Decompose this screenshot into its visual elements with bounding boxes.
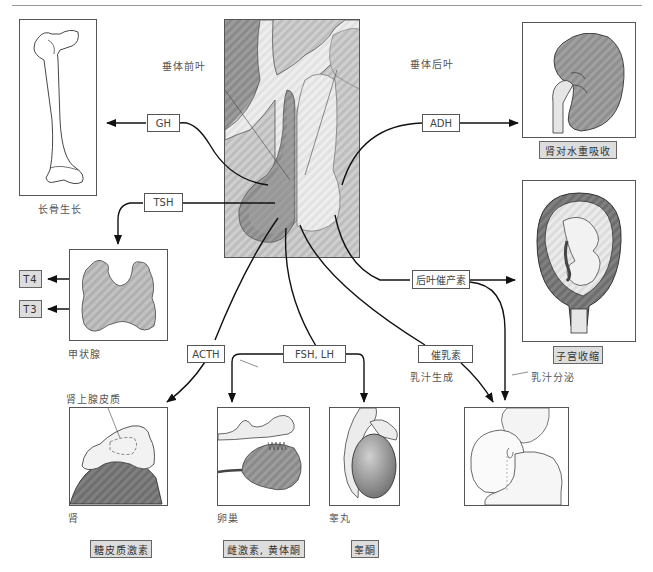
adrenal-cortex-label: 肾上腺皮质 bbox=[66, 391, 121, 406]
femur-illustration bbox=[20, 20, 96, 195]
uterus-effect: 子宫收缩 bbox=[553, 346, 603, 364]
kidney-panel bbox=[522, 22, 636, 138]
ovary-caption: 卵巢 bbox=[217, 510, 239, 525]
milk-production-label: 乳汁生成 bbox=[410, 369, 454, 384]
testis-output: 睾酮 bbox=[351, 540, 379, 558]
kidney-illustration bbox=[523, 23, 635, 137]
hormone-fsh-lh: FSH, LH bbox=[283, 345, 346, 363]
hormone-oxytocin: 后叶催产素 bbox=[412, 270, 470, 289]
thyroid-output-t4: T4 bbox=[19, 270, 42, 288]
posterior-pituitary-label: 垂体后叶 bbox=[410, 56, 454, 71]
anterior-pituitary-label: 垂体前叶 bbox=[162, 58, 206, 73]
milk-ejection-label: 乳汁分泌 bbox=[531, 369, 575, 384]
adrenal-output: 糖皮质激素 bbox=[90, 540, 152, 558]
adrenal-panel bbox=[69, 407, 168, 506]
ovary-panel bbox=[217, 407, 310, 506]
hormone-gh: GH bbox=[147, 114, 180, 132]
breastfeeding-panel bbox=[464, 407, 569, 506]
bone-panel bbox=[19, 19, 97, 196]
testis-panel bbox=[329, 407, 400, 506]
ovary-illustration bbox=[218, 408, 309, 505]
adrenal-caption: 肾 bbox=[68, 510, 79, 525]
thyroid-output-t3: T3 bbox=[19, 300, 42, 318]
bone-caption: 长骨生长 bbox=[38, 201, 82, 216]
testis-caption: 睾丸 bbox=[329, 510, 351, 525]
hormone-acth: ACTH bbox=[187, 345, 225, 363]
thyroid-panel bbox=[69, 249, 168, 341]
thyroid-illustration bbox=[70, 250, 167, 340]
thyroid-caption: 甲状腺 bbox=[68, 346, 101, 361]
header-rule bbox=[12, 5, 642, 6]
hormone-prolactin: 催乳素 bbox=[418, 345, 473, 363]
kidney-effect: 肾对水重吸收 bbox=[539, 141, 617, 159]
ovary-output: 雌激素, 黄体酮 bbox=[223, 540, 305, 558]
adrenal-illustration bbox=[70, 408, 167, 505]
hormone-tsh: TSH bbox=[144, 193, 183, 212]
pituitary-panel bbox=[224, 19, 360, 258]
hormone-adh: ADH bbox=[422, 114, 460, 132]
pituitary-illustration bbox=[225, 20, 360, 258]
uterus-illustration bbox=[523, 181, 635, 341]
breastfeeding-illustration bbox=[465, 408, 568, 505]
testis-illustration bbox=[330, 408, 399, 505]
uterus-panel bbox=[522, 180, 636, 342]
